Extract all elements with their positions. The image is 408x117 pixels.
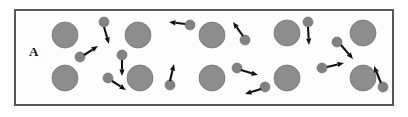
velocity-arrow-head [251, 71, 258, 76]
velocity-arrow-shaft [112, 81, 121, 86]
small-particle [75, 52, 85, 62]
small-particle [378, 82, 388, 92]
small-particle [99, 17, 109, 27]
velocity-arrow-head [119, 70, 124, 77]
small-particle [240, 35, 250, 45]
velocity-arrow-head [170, 64, 175, 71]
particle-scene [0, 0, 408, 117]
velocity-arrow-head [245, 90, 252, 95]
velocity-arrow-shaft [327, 64, 338, 67]
velocity-arrow-shaft [341, 45, 349, 54]
large-particle [199, 65, 225, 91]
velocity-arrow-shaft [84, 50, 93, 55]
large-particle [52, 22, 78, 48]
velocity-arrow-head [169, 20, 176, 25]
small-particles-layer [75, 17, 388, 92]
figure-root: A [0, 0, 408, 117]
large-particles-layer [52, 20, 376, 91]
small-particle [165, 80, 175, 90]
velocity-arrow-shaft [376, 72, 381, 83]
large-particle [52, 65, 78, 91]
velocity-arrow-head [306, 38, 311, 45]
velocity-arrow-shaft [170, 70, 173, 81]
large-particle [350, 65, 376, 91]
small-particle [303, 17, 313, 27]
small-particle [103, 73, 113, 83]
small-particle [260, 82, 270, 92]
small-particle [117, 50, 127, 60]
small-particle [185, 20, 195, 30]
large-particle [274, 20, 300, 46]
large-particle [125, 22, 151, 48]
velocity-arrow-head [337, 62, 344, 67]
small-particle [232, 63, 242, 73]
velocity-arrow-head [374, 66, 379, 73]
large-particle [199, 22, 225, 48]
small-particle [317, 63, 327, 73]
velocity-arrow-shaft [251, 89, 261, 92]
velocity-arrow-shaft [237, 27, 243, 36]
velocity-arrow-shaft [241, 70, 252, 73]
velocity-arrow-head [105, 37, 110, 44]
large-particle [274, 65, 300, 91]
large-particle [350, 20, 376, 46]
velocity-arrow-shaft [308, 27, 309, 39]
velocity-arrow-shaft [104, 27, 107, 38]
large-particle [127, 65, 153, 91]
velocity-arrow-shaft [175, 23, 185, 24]
